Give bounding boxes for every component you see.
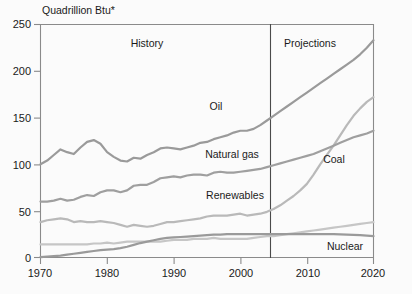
y-tick-label-150: 150 [13, 112, 31, 124]
y-tick-label-0: 0 [25, 252, 31, 264]
x-tick-label-1990: 1990 [162, 267, 186, 279]
x-tick-label-1970: 1970 [28, 267, 52, 279]
y-axis-unit-label: Quadrillion Btu* [42, 4, 115, 16]
x-tick-label-1980: 1980 [95, 267, 119, 279]
x-tick-label-2020: 2020 [361, 267, 385, 279]
series-label-nuclear: Nuclear [327, 240, 364, 252]
x-tick-label-2000: 2000 [229, 267, 253, 279]
series-label-renewables: Renewables [206, 189, 264, 201]
era-label-history: History [131, 37, 164, 49]
y-tick-label-250: 250 [13, 18, 31, 30]
chart-container: Quadrillion Btu* 250 200 150 100 50 0 [0, 0, 412, 294]
y-tick-label-100: 100 [13, 159, 31, 171]
era-label-projections: Projections [284, 37, 336, 49]
x-tick-label-2010: 2010 [296, 267, 320, 279]
y-tick-label-50: 50 [19, 206, 31, 218]
y-tick-label-200: 200 [13, 65, 31, 77]
series-label-oil: Oil [210, 100, 223, 112]
series-label-natural-gas: Natural gas [205, 148, 259, 160]
energy-consumption-line-chart: Quadrillion Btu* 250 200 150 100 50 0 [0, 0, 412, 294]
series-label-coal: Coal [323, 153, 345, 165]
